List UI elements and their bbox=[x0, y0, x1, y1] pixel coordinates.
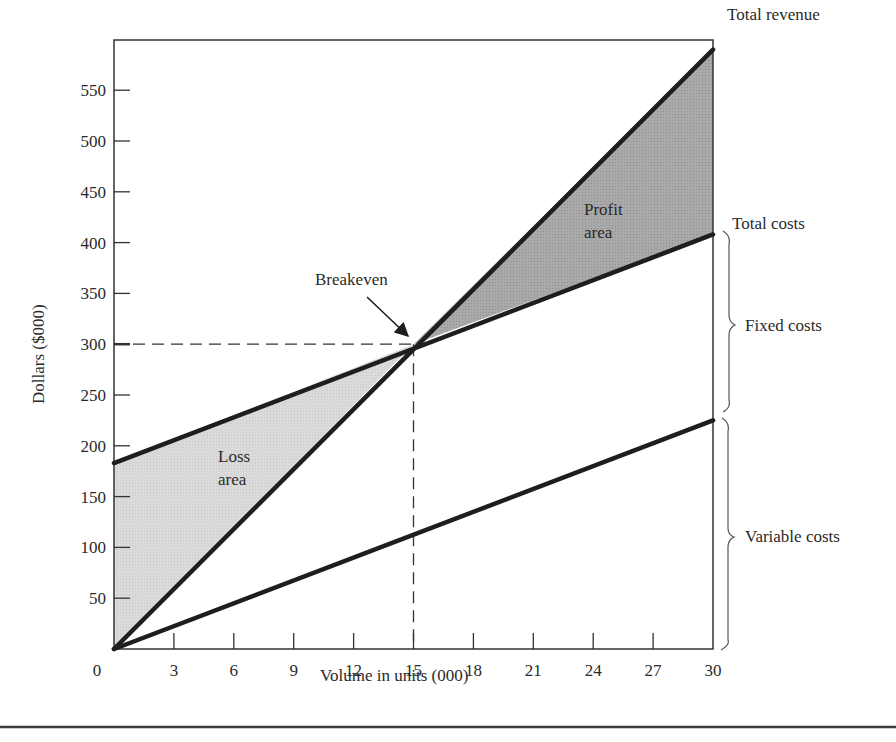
fixed-costs-brace-icon bbox=[723, 231, 735, 412]
total-costs-label: Total costs bbox=[732, 214, 805, 233]
right-side-labels: Total revenue Total costs Fixed costs Va… bbox=[721, 5, 840, 650]
fixed-costs-label: Fixed costs bbox=[745, 316, 822, 335]
y-tick-label: 100 bbox=[81, 538, 107, 557]
x-tick-label: 30 bbox=[705, 661, 722, 680]
variable-costs-brace-icon bbox=[721, 418, 734, 650]
variable-costs-label: Variable costs bbox=[745, 527, 840, 546]
profit-area-label-line2: area bbox=[584, 223, 613, 242]
loss-area-label-line1: Loss bbox=[218, 447, 250, 466]
y-tick-label: 50 bbox=[89, 589, 106, 608]
breakeven-annotation: Breakeven bbox=[315, 270, 408, 336]
x-tick-label: 0 bbox=[93, 661, 102, 680]
y-tick-label: 400 bbox=[81, 234, 107, 253]
breakeven-label: Breakeven bbox=[315, 270, 388, 289]
x-tick-label: 24 bbox=[585, 661, 603, 680]
x-tick-label: 21 bbox=[525, 661, 542, 680]
breakeven-arrow-icon bbox=[367, 297, 408, 336]
x-tick-label: 9 bbox=[289, 661, 298, 680]
y-tick-label: 500 bbox=[81, 132, 107, 151]
y-tick-label: 550 bbox=[81, 81, 107, 100]
y-tick-label: 200 bbox=[81, 437, 107, 456]
loss-area-label-line2: area bbox=[218, 470, 247, 489]
y-tick-label: 150 bbox=[81, 488, 107, 507]
y-axis-title: Dollars ($000) bbox=[29, 304, 48, 404]
x-tick-label: 6 bbox=[230, 661, 239, 680]
x-tick-label: 27 bbox=[645, 661, 663, 680]
y-tick-label: 250 bbox=[81, 386, 107, 405]
x-axis-title: Volume in units (000) bbox=[320, 666, 468, 685]
x-tick-label: 3 bbox=[170, 661, 179, 680]
y-tick-label: 450 bbox=[81, 183, 107, 202]
total-revenue-label: Total revenue bbox=[727, 5, 820, 24]
y-tick-label: 300 bbox=[81, 335, 107, 354]
breakeven-chart: 50100150200250300350400450500550 0369121… bbox=[0, 0, 896, 742]
y-tick-label: 350 bbox=[81, 284, 107, 303]
profit-area-label-line1: Profit bbox=[584, 200, 623, 219]
